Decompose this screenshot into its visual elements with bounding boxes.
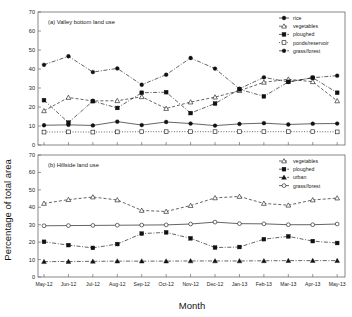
- marker-open-square: [286, 130, 290, 134]
- marker-filled-square: [91, 246, 95, 250]
- y-tick-label: 20: [29, 104, 35, 110]
- x-tick-label: Feb-13: [256, 281, 272, 287]
- legend-label: urban: [293, 174, 306, 180]
- panel-title: (b) Hillside land use: [48, 162, 99, 168]
- marker-dotted-circle: [282, 49, 286, 53]
- y-tick-label: 50: [29, 187, 35, 193]
- marker-filled-triangle: [335, 258, 340, 262]
- y-axis-b: 010203040506070: [29, 152, 41, 280]
- x-tick-label: Dec-12: [207, 281, 224, 287]
- marker-open-circle: [286, 223, 290, 227]
- marker-dotted-circle: [311, 76, 315, 80]
- marker-open-square: [213, 130, 217, 134]
- y-tick-label: 70: [29, 152, 35, 158]
- legend-label: vegetables: [293, 158, 318, 164]
- marker-filled-square: [262, 94, 266, 98]
- chart-svg: 010203040506070(a) Valley bottom land us…: [0, 0, 352, 317]
- marker-filled-circle: [164, 120, 168, 124]
- y-tick-label: 30: [29, 222, 35, 228]
- marker-open-circle: [115, 223, 119, 227]
- marker-dotted-circle: [67, 54, 71, 58]
- marker-filled-square: [189, 111, 193, 115]
- marker-dotted-circle: [164, 73, 168, 77]
- marker-filled-square: [164, 90, 168, 94]
- marker-dotted-circle: [238, 87, 242, 91]
- marker-filled-square: [67, 243, 71, 247]
- marker-filled-square: [42, 240, 46, 244]
- marker-filled-circle: [282, 16, 286, 20]
- plot-frame: [38, 155, 345, 277]
- marker-filled-circle: [91, 124, 95, 128]
- series-urban: [42, 258, 340, 263]
- marker-filled-square: [262, 237, 266, 241]
- marker-open-triangle: [237, 194, 242, 198]
- legend-label: ploughed: [293, 166, 314, 172]
- marker-filled-circle: [262, 121, 266, 125]
- x-tick-label: Jan-13: [232, 281, 248, 287]
- marker-filled-circle: [42, 123, 46, 127]
- marker-filled-circle: [115, 120, 119, 124]
- y-tick-label: 30: [29, 85, 35, 91]
- marker-open-circle: [140, 223, 144, 227]
- marker-dotted-circle: [262, 75, 266, 79]
- marker-dotted-circle: [140, 83, 144, 87]
- marker-dotted-circle: [42, 63, 46, 67]
- marker-filled-square: [282, 33, 286, 37]
- legend-label: ponds/reservoir: [293, 40, 329, 46]
- marker-open-triangle: [335, 99, 340, 103]
- marker-open-circle: [238, 222, 242, 226]
- marker-filled-circle: [311, 122, 315, 126]
- marker-open-triangle: [42, 108, 47, 112]
- marker-filled-square: [115, 242, 119, 246]
- marker-filled-square: [282, 167, 286, 171]
- marker-filled-square: [335, 91, 339, 95]
- marker-filled-circle: [238, 122, 242, 126]
- marker-open-square: [262, 130, 266, 134]
- chart-panel-a: 010203040506070(a) Valley bottom land us…: [29, 9, 345, 148]
- marker-open-square: [335, 130, 339, 134]
- marker-filled-circle: [189, 122, 193, 126]
- panel-title: (a) Valley bottom land use: [48, 19, 115, 25]
- legend-label: vegetables: [293, 23, 318, 29]
- marker-open-square: [311, 130, 315, 134]
- x-axis-title: Month: [179, 300, 205, 311]
- marker-filled-square: [213, 246, 217, 250]
- marker-filled-square: [115, 106, 119, 110]
- marker-open-square: [140, 130, 144, 134]
- marker-open-circle: [42, 224, 46, 228]
- marker-open-triangle: [66, 95, 71, 99]
- marker-filled-square: [238, 245, 242, 249]
- marker-dotted-circle: [115, 67, 119, 71]
- marker-dotted-circle: [335, 74, 339, 78]
- marker-open-triangle: [262, 201, 267, 205]
- marker-filled-square: [335, 241, 339, 245]
- y-tick-label: 0: [32, 142, 35, 148]
- marker-open-triangle: [335, 196, 340, 200]
- series-grass-forest: [42, 220, 339, 227]
- marker-open-circle: [262, 222, 266, 226]
- x-tick-label: Nov-12: [182, 281, 199, 287]
- marker-dotted-circle: [213, 67, 217, 71]
- y-tick-label: 20: [29, 239, 35, 245]
- series-rice: [42, 120, 339, 128]
- marker-filled-triangle: [286, 258, 291, 262]
- marker-filled-square: [140, 91, 144, 95]
- marker-open-square: [115, 130, 119, 134]
- marker-filled-square: [311, 239, 315, 243]
- marker-dotted-circle: [189, 56, 193, 60]
- marker-filled-square: [91, 99, 95, 103]
- y-tick-label: 10: [29, 123, 35, 129]
- legend-label: ploughed: [293, 31, 314, 37]
- marker-filled-square: [164, 230, 168, 234]
- marker-open-circle: [91, 224, 95, 228]
- x-tick-label: Jun-12: [61, 281, 77, 287]
- marker-open-square: [282, 41, 286, 45]
- marker-open-circle: [213, 220, 217, 224]
- series-line: [44, 56, 337, 88]
- y-tick-label: 60: [29, 28, 35, 34]
- marker-filled-circle: [335, 122, 339, 126]
- x-axis-b: May-12Jun-12Jul-12Aug-12Sep-12Oct-12Nov-…: [36, 274, 346, 287]
- marker-filled-triangle: [310, 258, 315, 262]
- marker-open-square: [91, 130, 95, 134]
- marker-filled-square: [140, 232, 144, 236]
